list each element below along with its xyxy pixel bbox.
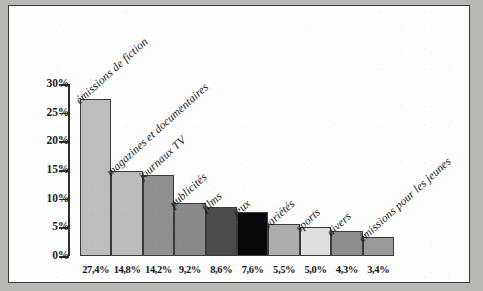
bar-chart-plot: 30%25%20%15%10%5%0% 27,4%14,8%14,2%9,2%8… (9, 6, 471, 284)
bar[interactable] (143, 175, 174, 256)
chart-page: 30%25%20%15%10%5%0% 27,4%14,8%14,2%9,2%8… (0, 0, 483, 291)
y-axis-tick-label: 30% (29, 77, 69, 89)
bar[interactable] (80, 99, 111, 256)
bar-value-label: 3,4% (360, 264, 397, 275)
bar[interactable] (268, 224, 299, 256)
y-axis-tick-label: 15% (29, 163, 69, 175)
chart-frame: 30%25%20%15%10%5%0% 27,4%14,8%14,2%9,2%8… (8, 5, 470, 283)
bar[interactable] (174, 203, 205, 256)
y-axis-tick-label: 0% (29, 249, 69, 261)
bar[interactable] (111, 171, 142, 256)
y-axis-tick-label: 10% (29, 192, 69, 204)
y-axis-tick-label: 20% (29, 134, 69, 146)
bars-group: 27,4%14,8%14,2%9,2%8,6%7,6%5,5%5,0%4,3%3… (72, 6, 402, 284)
y-axis-tick-label: 5% (29, 220, 69, 232)
y-axis-tick-label: 25% (29, 106, 69, 118)
bar[interactable] (206, 207, 237, 256)
